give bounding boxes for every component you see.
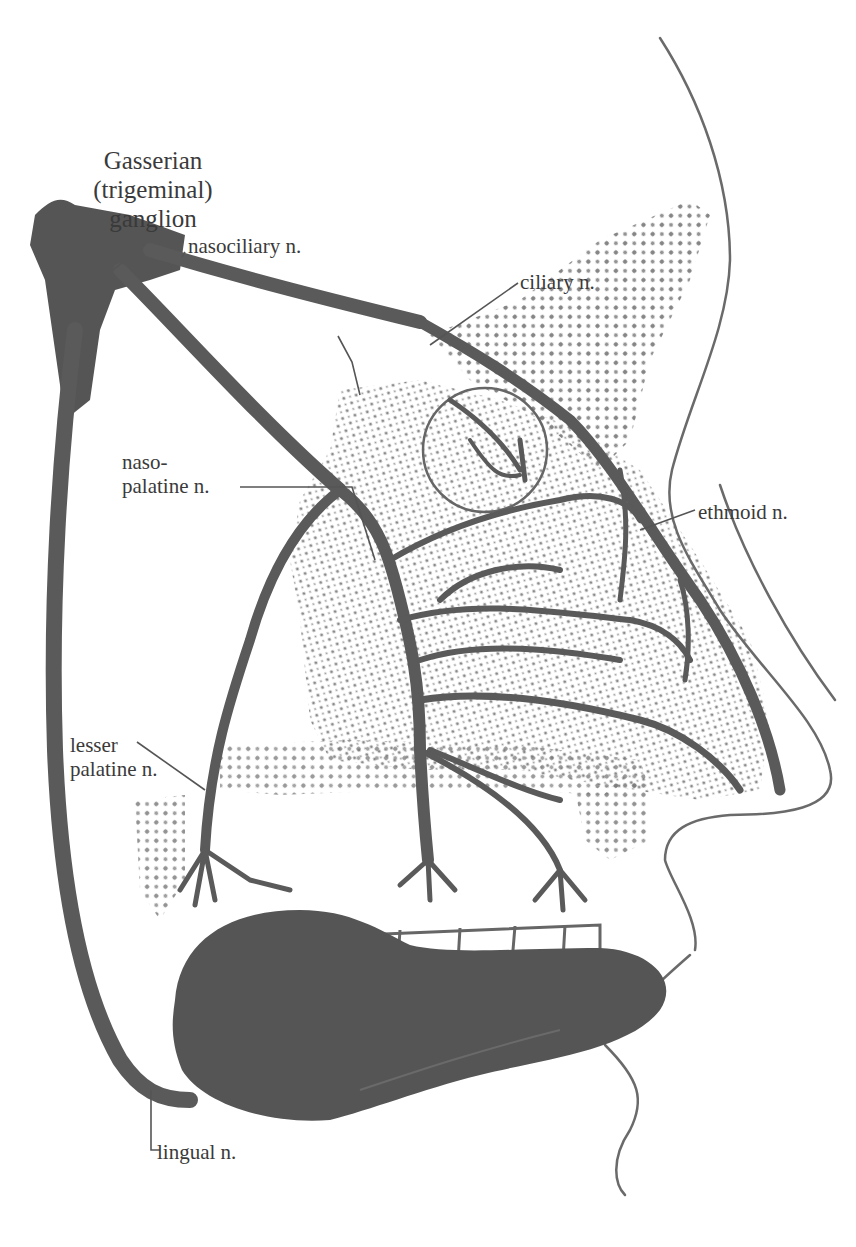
lesser-palatine-label: lesser palatine n. bbox=[70, 733, 157, 781]
nasopalatine-label: naso- palatine n. bbox=[122, 450, 209, 498]
lesser-palatine-label-line1: lesser bbox=[70, 733, 157, 757]
ganglion-label: Gasserian (trigeminal) ganglion bbox=[88, 146, 218, 233]
ciliary-label: ciliary n. bbox=[520, 270, 595, 294]
nasociliary-label: nasociliary n. bbox=[188, 234, 301, 258]
lingual-label: lingual n. bbox=[157, 1140, 236, 1164]
ganglion-label-line2: (trigeminal) bbox=[88, 175, 218, 204]
nasopalatine-label-line2: palatine n. bbox=[122, 474, 209, 498]
ganglion-label-line1: Gasserian bbox=[88, 146, 218, 175]
nasopalatine-label-line1: naso- bbox=[122, 450, 209, 474]
ganglion-label-line3: ganglion bbox=[88, 204, 218, 233]
ethmoid-label: ethmoid n. bbox=[698, 500, 788, 524]
lesser-palatine-label-line2: palatine n. bbox=[70, 757, 157, 781]
